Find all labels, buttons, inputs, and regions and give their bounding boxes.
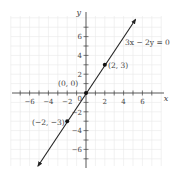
point-2-3 (103, 63, 107, 67)
x-tick-label: −4 (43, 98, 54, 106)
x-tick-label: −2 (62, 98, 72, 106)
point-origin (84, 91, 88, 95)
point-neg2-neg3 (65, 119, 69, 123)
x-axis-label: x (164, 94, 169, 103)
y-axis-label: y (75, 8, 81, 17)
x-tick-label: −6 (24, 98, 35, 106)
x-tick-label: 4 (121, 98, 126, 106)
x-tick-label: 6 (140, 98, 145, 106)
y-tick-label: 2 (78, 71, 82, 79)
y-tick-label: −6 (72, 146, 83, 154)
equation-label: 3x − 2y = 0 (125, 38, 170, 47)
y-tick-label: −4 (72, 127, 83, 135)
point-neg2-neg3-label: (−2, −3) (32, 118, 65, 127)
chart-canvas: −6 −4 −2 2 4 6 6 4 2 −2 −4 −6 0 y x (0, … (0, 0, 175, 176)
y-tick-label: 6 (78, 33, 83, 41)
point-2-3-label: (2, 3) (108, 61, 128, 70)
point-origin-label: (0, 0) (58, 79, 78, 88)
x-tick-label: 2 (103, 98, 107, 106)
y-tick-label: 4 (78, 52, 83, 60)
